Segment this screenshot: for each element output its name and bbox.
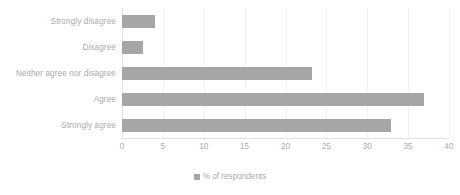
- x-tick-label: 10: [199, 142, 208, 151]
- gridline: [449, 8, 450, 138]
- x-tick-label: 30: [363, 142, 372, 151]
- x-tick-label: 15: [240, 142, 249, 151]
- x-tick-label: 35: [404, 142, 413, 151]
- bar-fill: [122, 41, 143, 54]
- x-tick-label: 0: [120, 142, 125, 151]
- bar: [122, 41, 143, 54]
- legend-square-marker: [194, 174, 200, 180]
- plot-area: [122, 8, 449, 138]
- bar: [122, 119, 391, 132]
- category-label: Agree: [4, 95, 116, 104]
- legend-label: % of respondents: [203, 172, 267, 181]
- category-label: Neither agree nor disagree: [4, 69, 116, 78]
- bar: [122, 67, 312, 80]
- gridline: [408, 8, 409, 138]
- bar-chart: Strongly disagreeDisagreeNeither agree n…: [0, 0, 460, 195]
- category-label: Strongly disagree: [4, 17, 116, 26]
- x-tick-label: 5: [161, 142, 166, 151]
- bar: [122, 15, 155, 28]
- bar-fill: [122, 15, 155, 28]
- bar-fill: [122, 119, 391, 132]
- bar-fill: [122, 93, 424, 106]
- x-tick-label: 25: [322, 142, 331, 151]
- bar: [122, 93, 424, 106]
- x-axis-line: [122, 138, 449, 139]
- chart-legend: % of respondents: [0, 172, 460, 181]
- category-label: Strongly agree: [4, 121, 116, 130]
- x-tick-label: 20: [281, 142, 290, 151]
- x-axis-tick-labels: 0510152025303540: [122, 142, 449, 156]
- x-tick-label: 40: [444, 142, 453, 151]
- category-axis: Strongly disagreeDisagreeNeither agree n…: [0, 8, 116, 138]
- category-label: Disagree: [4, 43, 116, 52]
- bar-fill: [122, 67, 312, 80]
